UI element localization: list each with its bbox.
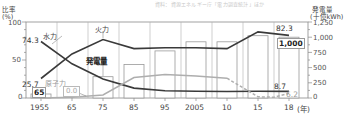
xtick-15: 15 [253,103,263,112]
xtick-10: 10 [222,103,232,112]
xtick-18: 18 [284,103,294,112]
series-label-generation: 発電量 [86,55,107,66]
chart-container: 資料：資源エネルギー庁「電力調査統計」ほか 比率 (%) 発電量 (十億kWh)… [0,0,357,119]
xtick-1955: 1955 [30,103,49,112]
x-axis-unit: (年) [297,103,310,114]
series-label-thermal: 火力 [95,24,109,34]
annotation-hydro-end: 8.7 [274,82,286,91]
xtick-2005: 2005 [185,103,204,112]
annotation-nuclear-start: 0.0 [63,86,80,97]
xtick-65: 65 [67,103,77,112]
plot-area [0,0,357,119]
xtick-75: 75 [98,103,108,112]
xtick-85: 85 [129,103,139,112]
annotation-thermal-end: 82.3 [276,24,293,33]
xtick-95: 95 [160,103,170,112]
series-label-hydro: 水力 [43,31,57,41]
annotation-hydro-start: 74.3 [22,36,39,45]
annotation-nuclear-end: 6.2 [286,90,298,99]
annotation-generation-start: 65 [32,87,46,98]
annotation-generation-end: 1,000 [277,38,305,49]
